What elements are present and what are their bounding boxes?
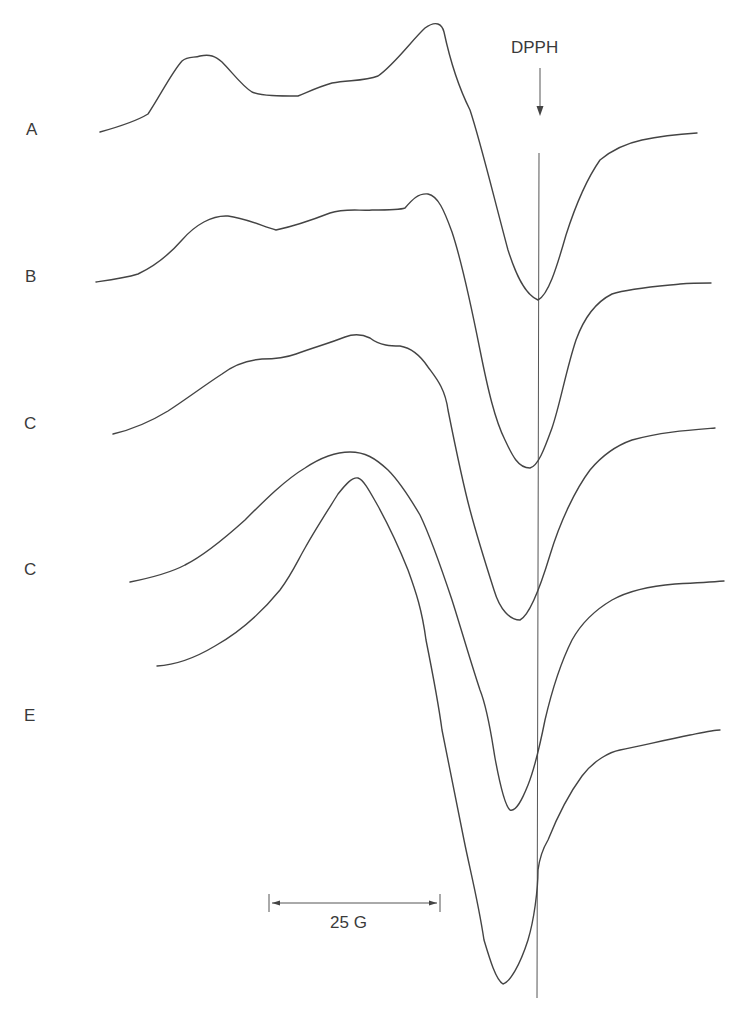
trace-c1 xyxy=(113,334,715,620)
trace-b xyxy=(96,194,711,468)
dpph-arrow-icon xyxy=(537,68,544,116)
spectra-plot xyxy=(0,0,742,1013)
trace-e xyxy=(157,478,720,984)
trace-c2 xyxy=(130,452,724,810)
trace-a xyxy=(100,24,697,300)
scale-bar-right-arrow-icon xyxy=(429,901,437,906)
scale-bar-left-arrow-icon xyxy=(272,901,280,906)
scale-bar xyxy=(269,894,440,912)
